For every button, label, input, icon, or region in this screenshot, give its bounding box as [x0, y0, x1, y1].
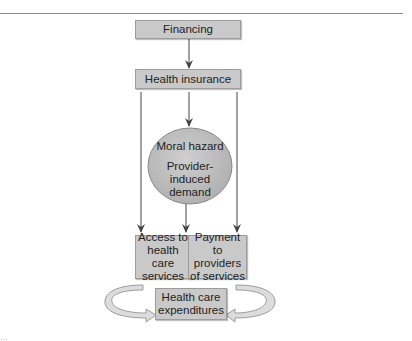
payment-box: Payment to providers of services — [188, 235, 247, 279]
access-label: Access to health care services — [137, 231, 189, 283]
oval-text: Moral hazard Provider-induced demand — [150, 140, 230, 199]
financing-box: Financing — [135, 20, 241, 39]
expenditures-label: Health care expenditures — [156, 291, 226, 317]
financing-label: Financing — [163, 23, 213, 36]
curved-arrow-left — [105, 285, 156, 322]
figure-caption: … — [0, 333, 9, 341]
curved-arrow-right — [226, 285, 275, 322]
moral-hazard-label: Moral hazard — [150, 140, 230, 153]
expenditures-box: Health care expenditures — [155, 288, 227, 320]
health-insurance-label: Health insurance — [145, 73, 231, 86]
health-insurance-box: Health insurance — [135, 69, 241, 89]
access-box: Access to health care services — [135, 235, 191, 279]
payment-label: Payment to providers of services — [190, 231, 245, 283]
provider-induced-demand-label: Provider-induced demand — [150, 160, 230, 199]
